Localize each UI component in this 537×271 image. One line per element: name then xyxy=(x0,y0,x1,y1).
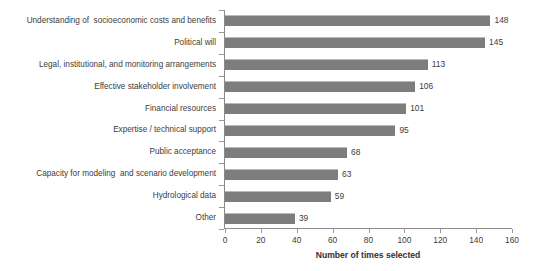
x-axis-tick xyxy=(404,229,405,233)
bar-row: Public acceptance68 xyxy=(0,141,537,163)
bar xyxy=(225,169,338,180)
y-axis-tick xyxy=(219,207,224,208)
category-label: Capacity for modeling and scenario devel… xyxy=(0,169,216,179)
y-axis-tick xyxy=(219,76,224,77)
bar-rows: Understanding of socioeconomic costs and… xyxy=(0,10,537,229)
bar xyxy=(225,37,485,48)
x-axis-tick-label: 80 xyxy=(364,235,373,245)
x-axis-tick-label: 0 xyxy=(223,235,228,245)
bar-with-value: 59 xyxy=(225,191,344,202)
x-axis-tick-label: 40 xyxy=(292,235,301,245)
bar xyxy=(225,147,347,158)
x-axis-tick-label: 20 xyxy=(256,235,265,245)
bar-with-value: 101 xyxy=(225,103,424,114)
category-label: Hydrological data xyxy=(0,191,216,201)
bar-value-label: 101 xyxy=(410,104,424,113)
x-axis-tick-label: 120 xyxy=(433,235,447,245)
x-axis-tick xyxy=(512,229,513,233)
y-axis-tick xyxy=(219,54,224,55)
bar-with-value: 68 xyxy=(225,147,360,158)
y-axis-tick xyxy=(219,229,224,230)
bar xyxy=(225,15,490,26)
category-label: Understanding of socioeconomic costs and… xyxy=(0,16,216,26)
bar xyxy=(225,103,406,114)
bar-value-label: 63 xyxy=(342,170,351,179)
y-axis-tick xyxy=(219,98,224,99)
x-axis-tick xyxy=(476,229,477,233)
bar-with-value: 95 xyxy=(225,125,409,136)
x-axis-title: Number of times selected xyxy=(224,250,512,260)
bar-value-label: 113 xyxy=(432,60,445,69)
x-axis-tick xyxy=(333,229,334,233)
y-axis-tick xyxy=(219,10,224,11)
bar-row: Political will145 xyxy=(0,32,537,54)
bar-row: Capacity for modeling and scenario devel… xyxy=(0,163,537,185)
y-axis-tick xyxy=(219,120,224,121)
bar-row: Financial resources101 xyxy=(0,98,537,120)
category-label: Public acceptance xyxy=(0,147,216,157)
bar xyxy=(225,213,295,224)
bar-row: Understanding of socioeconomic costs and… xyxy=(0,10,537,32)
bar-value-label: 95 xyxy=(399,126,408,135)
category-label: Other xyxy=(0,213,216,223)
y-axis-tick xyxy=(219,141,224,142)
y-axis-tick xyxy=(219,32,224,33)
category-label: Legal, institutional, and monitoring arr… xyxy=(0,60,216,70)
bar-row: Expertise / technical support95 xyxy=(0,120,537,142)
bar-chart: Understanding of socioeconomic costs and… xyxy=(0,0,537,271)
category-label: Political will xyxy=(0,38,216,48)
x-axis-tick xyxy=(297,229,298,233)
bar-with-value: 113 xyxy=(225,59,445,70)
bar-value-label: 68 xyxy=(351,148,360,157)
category-label: Effective stakeholder involvement xyxy=(0,82,216,92)
bar-value-label: 145 xyxy=(489,38,503,47)
bar xyxy=(225,191,331,202)
x-axis-tick xyxy=(440,229,441,233)
bar-row: Effective stakeholder involvement106 xyxy=(0,76,537,98)
category-label: Expertise / technical support xyxy=(0,125,216,135)
bar-with-value: 63 xyxy=(225,169,351,180)
bar-with-value: 106 xyxy=(225,81,433,92)
bar-value-label: 106 xyxy=(419,82,433,91)
bar-value-label: 148 xyxy=(494,16,508,25)
x-axis-tick-label: 100 xyxy=(397,235,411,245)
y-axis-tick xyxy=(219,163,224,164)
bar-with-value: 39 xyxy=(225,213,308,224)
x-axis-tick-label: 160 xyxy=(505,235,519,245)
x-axis-tick-label: 60 xyxy=(328,235,337,245)
bar-value-label: 59 xyxy=(335,192,344,201)
x-axis-tick xyxy=(369,229,370,233)
x-axis-tick xyxy=(225,229,226,233)
bar xyxy=(225,81,415,92)
bar xyxy=(225,125,395,136)
bar xyxy=(225,59,428,70)
bar-row: Other39 xyxy=(0,207,537,229)
bar-with-value: 148 xyxy=(225,15,508,26)
bar-row: Hydrological data59 xyxy=(0,185,537,207)
x-axis-tick-label: 140 xyxy=(469,235,483,245)
bar-with-value: 145 xyxy=(225,37,503,48)
y-axis-tick xyxy=(219,185,224,186)
bar-value-label: 39 xyxy=(299,214,308,223)
bar-row: Legal, institutional, and monitoring arr… xyxy=(0,54,537,76)
x-axis-tick xyxy=(261,229,262,233)
category-label: Financial resources xyxy=(0,104,216,114)
